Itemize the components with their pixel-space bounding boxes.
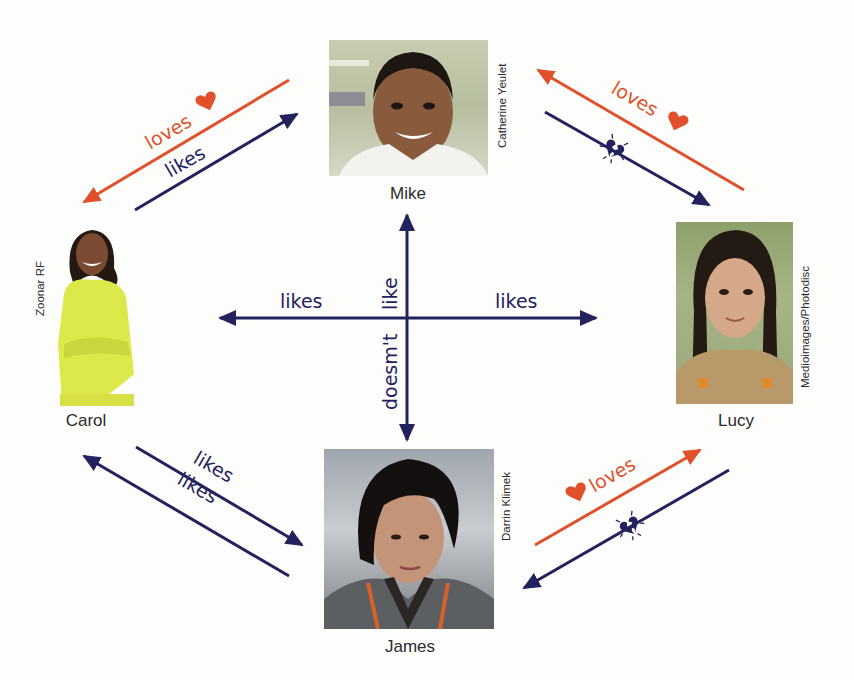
arrow-lucy-to-james-broken-heart [524,470,729,588]
heart-icon [564,481,590,505]
label-likes-left: likes [280,290,322,312]
arrow-james-loves-lucy: loves [535,450,700,545]
label-likes: likes [161,141,209,181]
heart-icon [194,90,220,114]
arrow-lucy-loves-mike: loves [538,70,744,190]
relationship-diagram: loves likes loves likes likes like doesm… [0,0,854,681]
arrow-mike-loves-carol: loves [84,80,289,202]
arrow-center-vertical: like doesm't [379,215,407,440]
label-likes-right: likes [495,290,537,312]
heart-icon [664,110,690,134]
arrow-carol-likes-james: likes [136,446,302,545]
label-like: like [379,277,401,310]
arrow-james-likes-carol: likes [84,456,289,576]
arrow-mike-to-lucy-broken-heart [545,112,709,205]
label-loves: loves [608,76,662,120]
label-doesmt: doesm't [379,334,401,410]
